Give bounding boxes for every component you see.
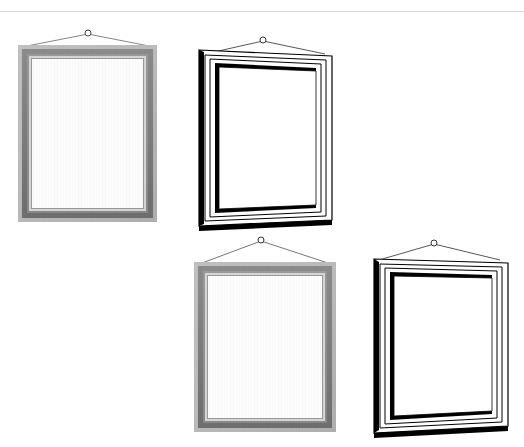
frame-band-dark: [198, 266, 332, 428]
hook-icon: [85, 30, 91, 36]
frame-picture-area: [394, 276, 492, 416]
frame-bottom-right[interactable]: Line-Art Perspective Picture Frame (bott…: [366, 232, 524, 447]
frame-left-shadow: [199, 50, 204, 226]
frame-band-bevel: [203, 271, 327, 423]
picture-frame-body[interactable]: [366, 232, 524, 442]
frame-top-left[interactable]: Grayscale Picture Frame (top left): [0, 0, 200, 240]
frame-band-bevel: [27, 54, 148, 213]
frame-picture-area[interactable]: [31, 58, 144, 209]
frame-bottom-center[interactable]: Grayscale Picture Frame (bottom center): [180, 225, 350, 447]
frame-top-right[interactable]: Line-Art Perspective Picture Frame (top …: [190, 30, 350, 240]
frame-inner-lip: [205, 273, 325, 421]
frame-band-dark: [22, 49, 153, 218]
frame-inner-lip: [29, 56, 146, 211]
frame-left-shadow: [374, 259, 379, 433]
frame-picture-area: [219, 67, 316, 209]
picture-frame-body[interactable]: [18, 45, 157, 222]
hook-icon: [260, 37, 266, 43]
picture-frame-body[interactable]: [190, 30, 350, 235]
frame-picture-area[interactable]: [207, 275, 323, 419]
hook-icon: [431, 240, 437, 246]
picture-frame-body[interactable]: [194, 262, 336, 432]
hook-icon: [258, 237, 264, 243]
illustration-canvas: Grayscale Picture Frame (top left): [0, 0, 524, 447]
